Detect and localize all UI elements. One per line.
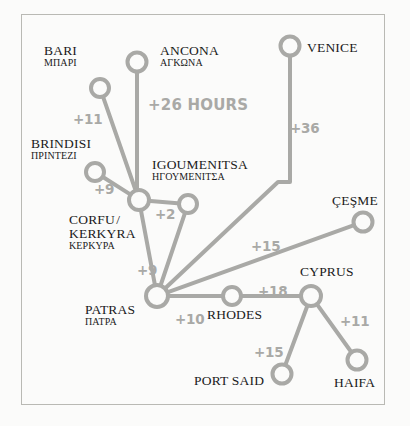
- node-bari[interactable]: [91, 79, 109, 97]
- node-label-en-corfu: KERKYRA: [69, 227, 136, 241]
- node-cyprus[interactable]: [301, 286, 321, 306]
- edge-weight-brindisi-corfu: +9: [94, 181, 114, 197]
- node-label-venice: VENICE: [307, 41, 358, 55]
- route-edge-corfu-igoumenitsa: [147, 201, 180, 204]
- node-label-en-cyprus: CYPRUS: [300, 265, 354, 279]
- node-label-brindisi: BRINDISIΠΡΙΝΤΕΖΙ: [31, 137, 91, 161]
- node-label-en-brindisi: BRINDISI: [31, 137, 91, 151]
- node-label-en-cesme: ÇEŞME: [332, 194, 378, 208]
- node-label-greek-patras: ΠΑΤΡΑ: [85, 317, 135, 327]
- node-label-greek-igoumenitsa: ΗΓΟΥΜΕΝΙΤΣΑ: [152, 172, 248, 182]
- node-label-en-haifa: HAIFA: [334, 376, 375, 390]
- node-label-en-igoumenitsa: IGOUMENITSA: [152, 158, 248, 172]
- node-haifa[interactable]: [348, 351, 367, 370]
- node-label-ancona: ANCONAΑΓΚΩΝΑ: [160, 44, 219, 68]
- edge-weight-cyprus-port_said: +15: [254, 344, 284, 360]
- route-edge-bari-corfu: [102, 95, 136, 192]
- edge-weight-ancona-corfu: +26 HOURS: [148, 96, 248, 114]
- node-venice[interactable]: [281, 37, 300, 56]
- node-label-en-ancona: ANCONA: [160, 44, 219, 58]
- edge-weight-cyprus-haifa: +11: [340, 313, 370, 329]
- node-igoumenitsa[interactable]: [179, 195, 197, 213]
- node-ancona[interactable]: [128, 53, 147, 72]
- node-patras[interactable]: [146, 285, 168, 307]
- node-label-rhodes: RHODES: [207, 308, 262, 322]
- edge-weight-patras-cesme: +15: [251, 238, 281, 254]
- node-label-en-bari: BARI: [44, 44, 77, 58]
- edge-weight-patras-rhodes: +10: [175, 311, 205, 327]
- node-corfu[interactable]: [129, 190, 149, 210]
- node-label-bari: BARIΜΠΑΡΙ: [44, 44, 77, 68]
- node-rhodes[interactable]: [223, 287, 241, 305]
- node-label-cyprus: CYPRUS: [300, 265, 354, 279]
- node-label-igoumenitsa: IGOUMENITSAΗΓΟΥΜΕΝΙΤΣΑ: [152, 158, 248, 182]
- node-layer: [86, 37, 373, 384]
- node-label-en-port_said: PORT SAID: [194, 374, 264, 388]
- node-label-corfu: CORFU /KERKYRAΚΕΡΚΥΡΑ: [69, 213, 136, 251]
- node-label-cesme: ÇEŞME: [332, 194, 378, 208]
- node-label-en-corfu: CORFU /: [69, 213, 136, 227]
- edge-weight-patras-corfu: +9: [137, 262, 157, 278]
- node-label-en-patras: PATRAS: [85, 303, 135, 317]
- node-label-en-venice: VENICE: [307, 41, 358, 55]
- edge-weight-corfu-igoumenitsa: +2: [155, 206, 175, 222]
- node-label-greek-corfu: ΚΕΡΚΥΡΑ: [69, 241, 136, 251]
- node-label-greek-ancona: ΑΓΚΩΝΑ: [160, 58, 219, 68]
- edge-weight-bari-corfu: +11: [73, 111, 103, 127]
- route-edge-igoumenitsa-patras: [160, 211, 186, 287]
- node-cesme[interactable]: [354, 213, 373, 232]
- edge-weight-venice-patras: +36: [290, 120, 320, 136]
- route-edge-cyprus-port_said: [285, 304, 308, 367]
- node-label-greek-brindisi: ΠΡΙΝΤΕΖΙ: [31, 151, 91, 161]
- node-label-port_said: PORT SAID: [194, 374, 264, 388]
- diagram-page: BARIΜΠΑΡΙANCONAΑΓΚΩΝΑVENICEBRINDISIΠΡΙΝΤ…: [0, 0, 410, 426]
- node-label-patras: PATRASΠΑΤΡΑ: [85, 303, 135, 327]
- edge-weight-rhodes-cyprus: +18: [258, 283, 288, 299]
- node-label-haifa: HAIFA: [334, 376, 375, 390]
- node-port_said[interactable]: [273, 365, 292, 384]
- node-label-greek-bari: ΜΠΑΡΙ: [44, 58, 77, 68]
- node-label-en-rhodes: RHODES: [207, 308, 262, 322]
- node-brindisi[interactable]: [86, 163, 104, 181]
